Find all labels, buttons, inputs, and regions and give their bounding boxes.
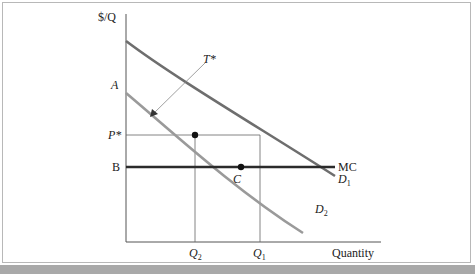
quantity-label-q1: Q1 — [253, 246, 266, 262]
shift-arrow-label: T* — [203, 52, 216, 66]
y-axis-label: $/Q — [98, 10, 116, 24]
price-label-b: B — [112, 160, 120, 174]
price-label-a: A — [110, 78, 119, 92]
x-axis-label: Quantity — [332, 246, 374, 260]
price-label-p-star: P* — [107, 128, 121, 142]
point-c — [238, 164, 244, 170]
point-c-label: C — [233, 172, 242, 186]
point-q2-p-star — [192, 132, 198, 138]
quantity-label-q2: Q2 — [189, 246, 202, 262]
d1-label: D1 — [337, 172, 351, 188]
demand-shift-diagram: $/Q Quantity A P* B Q2 Q1 MC D1 D2 C T* — [0, 0, 475, 274]
demand-curve-d1 — [126, 41, 335, 176]
d2-label: D2 — [314, 202, 328, 218]
